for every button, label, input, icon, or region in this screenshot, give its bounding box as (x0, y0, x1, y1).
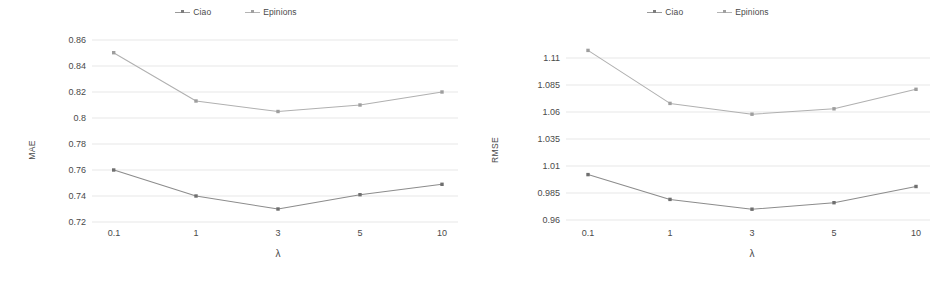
x-tick-2: 3 (749, 228, 754, 238)
data-point-epinions (832, 107, 835, 110)
x-tick-0: 0.1 (108, 228, 121, 238)
legend-label-ciao: Ciao (193, 7, 211, 17)
x-tick-4: 10 (437, 228, 447, 238)
legend-marker-epinions-icon (717, 9, 732, 16)
legend-item-ciao[interactable]: Ciao (175, 7, 211, 17)
chart-panel-mae: Ciao Epinions MAE 0.86 0.84 0.82 0.8 0.7… (0, 0, 472, 281)
data-point-epinions (358, 103, 361, 106)
data-point-epinions (112, 51, 115, 54)
data-point-epinions (194, 99, 197, 102)
data-point-ciao (668, 198, 671, 201)
data-point-ciao (750, 208, 753, 211)
legend-marker-epinions-icon (245, 9, 260, 16)
data-point-ciao (914, 185, 917, 188)
legend-marker-ciao-icon (647, 9, 662, 16)
chart-panel-rmse: Ciao Epinions RMSE 1.11 1.085 1.06 1.035… (472, 0, 944, 281)
plot-area-rmse: RMSE 1.11 1.085 1.06 1.035 1.01 0.985 0.… (472, 18, 944, 281)
figure-two-line-charts: Ciao Epinions MAE 0.86 0.84 0.82 0.8 0.7… (0, 0, 945, 281)
series-layer-mae (0, 18, 472, 281)
x-tick-4: 10 (911, 228, 921, 238)
x-tick-2: 3 (275, 228, 280, 238)
legend-marker-ciao-icon (175, 9, 190, 16)
x-tick-1: 1 (667, 228, 672, 238)
data-point-ciao (194, 194, 197, 197)
data-point-epinions (586, 49, 589, 52)
series-layer-rmse (472, 18, 944, 281)
legend-label-epinions: Epinions (735, 7, 768, 17)
series-line-ciao (114, 170, 442, 209)
data-point-epinions (276, 110, 279, 113)
data-point-epinions (914, 88, 917, 91)
legend-item-ciao[interactable]: Ciao (647, 7, 683, 17)
legend-label-ciao: Ciao (665, 7, 683, 17)
data-point-ciao (276, 207, 279, 210)
legend-item-epinions[interactable]: Epinions (245, 7, 296, 17)
data-point-ciao (358, 193, 361, 196)
data-point-ciao (440, 183, 443, 186)
x-tick-3: 5 (357, 228, 362, 238)
x-axis-label-rmse: λ (750, 248, 755, 259)
data-point-ciao (832, 201, 835, 204)
legend-label-epinions: Epinions (263, 7, 296, 17)
data-point-ciao (586, 173, 589, 176)
x-tick-0: 0.1 (582, 228, 595, 238)
x-tick-3: 5 (831, 228, 836, 238)
series-line-epinions (114, 53, 442, 112)
series-line-epinions (588, 50, 916, 114)
x-tick-1: 1 (193, 228, 198, 238)
legend-item-epinions[interactable]: Epinions (717, 7, 768, 17)
plot-area-mae: MAE 0.86 0.84 0.82 0.8 0.78 0.76 0.74 0.… (0, 18, 472, 281)
x-axis-label-mae: λ (276, 248, 281, 259)
series-line-ciao (588, 175, 916, 210)
data-point-ciao (112, 168, 115, 171)
data-point-epinions (440, 90, 443, 93)
data-point-epinions (750, 113, 753, 116)
data-point-epinions (668, 102, 671, 105)
